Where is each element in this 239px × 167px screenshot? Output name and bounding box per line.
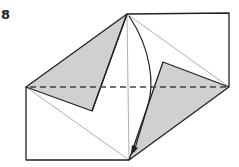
origami-diagram (0, 0, 239, 167)
crease-vertical (127, 14, 129, 160)
left-shaded-flap (26, 14, 127, 111)
diagram-canvas: 8 (0, 0, 239, 167)
